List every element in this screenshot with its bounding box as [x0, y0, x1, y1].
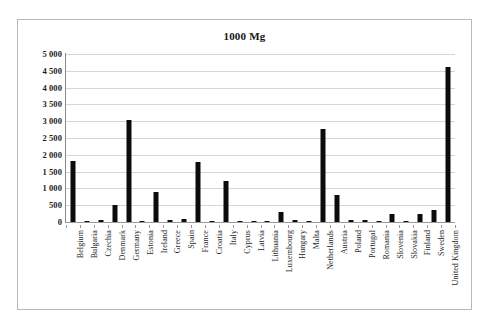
x-axis-tick — [163, 225, 164, 228]
y-axis-tick-label: 0 — [58, 217, 62, 227]
x-axis-tick-label: Lithuania — [271, 230, 280, 262]
y-axis-tick-label: 1 500 — [42, 167, 62, 177]
gridline — [66, 222, 455, 223]
x-axis-tick — [247, 225, 248, 228]
y-axis-tick-label: 3 500 — [42, 99, 62, 109]
x-axis-tick-label: Finland — [423, 230, 432, 255]
gridline — [66, 104, 455, 105]
x-axis-tick — [386, 225, 387, 228]
bar[interactable] — [279, 212, 284, 222]
x-axis-tick-label: Spain — [187, 230, 196, 249]
x-axis-tick — [261, 225, 262, 228]
x-axis-tick — [427, 225, 428, 228]
y-axis-tick-label: 2 000 — [42, 150, 62, 160]
bar[interactable] — [362, 220, 367, 222]
gridline — [66, 54, 455, 55]
x-axis-tick-label: Ireland — [160, 230, 169, 253]
x-axis-tick — [66, 225, 67, 228]
bar[interactable] — [321, 129, 326, 222]
gridline — [66, 155, 455, 156]
bar[interactable] — [293, 220, 298, 222]
bar[interactable] — [376, 221, 381, 223]
x-axis-tick-label: Malta — [312, 230, 321, 249]
gridline — [66, 88, 455, 89]
x-axis-tick — [219, 225, 220, 228]
bar[interactable] — [348, 220, 353, 222]
x-axis-tick-label: Germany — [132, 230, 141, 260]
x-axis-tick — [177, 225, 178, 228]
x-axis-tick-label: Croatia — [215, 230, 224, 254]
x-axis-tick-label: Poland — [354, 230, 363, 253]
x-axis-tick-label: Denmark — [118, 230, 127, 260]
x-axis-tick-label: Cyprus — [243, 230, 252, 254]
bar[interactable] — [237, 221, 242, 223]
x-axis-tick — [122, 225, 123, 228]
x-axis-tick-label: Hungary — [298, 230, 307, 259]
x-axis-tick-label: Bulgaria — [90, 230, 99, 258]
bar[interactable] — [98, 220, 103, 222]
bar[interactable] — [70, 161, 75, 222]
x-axis-tick-label: Portugal — [368, 230, 377, 258]
x-axis-tick — [135, 225, 136, 228]
x-axis-tick-label: Romania — [382, 230, 391, 260]
bar[interactable] — [334, 195, 339, 222]
bar[interactable] — [209, 221, 214, 223]
bar[interactable] — [182, 219, 187, 222]
x-axis-tick — [316, 225, 317, 228]
x-axis-tick-labels: BelgiumBulgariaCzechiaDenmarkGermanyEsto… — [66, 225, 455, 321]
y-axis-tick-label: 3 000 — [42, 116, 62, 126]
x-axis-tick-label: Netherlands — [326, 230, 335, 270]
x-axis-tick — [80, 225, 81, 228]
x-axis-tick — [441, 225, 442, 228]
y-axis-tick-label: 4 000 — [42, 83, 62, 93]
bar[interactable] — [168, 220, 173, 222]
chart-title: 1000 Mg — [18, 30, 471, 42]
bar[interactable] — [404, 221, 409, 223]
x-axis-tick — [330, 225, 331, 228]
bar[interactable] — [223, 181, 228, 222]
x-axis-tick — [358, 225, 359, 228]
bar[interactable] — [195, 162, 200, 222]
bar[interactable] — [154, 192, 159, 222]
x-axis-tick-label: Luxembourg — [285, 230, 294, 272]
y-axis-tick-label: 5 000 — [42, 49, 62, 59]
bar[interactable] — [84, 221, 89, 223]
bar[interactable] — [418, 214, 423, 222]
bar[interactable] — [446, 67, 451, 222]
gridline — [66, 138, 455, 139]
bar[interactable] — [126, 120, 131, 222]
x-axis-tick — [413, 225, 414, 228]
y-axis-tick-label: 1 000 — [42, 183, 62, 193]
plot-area — [66, 54, 455, 222]
bar[interactable] — [390, 214, 395, 222]
x-axis-tick-label: Sweden — [437, 230, 446, 256]
x-axis-tick — [149, 225, 150, 228]
gridline — [66, 71, 455, 72]
x-axis-tick-label: Latvia — [257, 230, 266, 251]
x-axis-tick-label: France — [201, 230, 210, 252]
x-axis-tick — [399, 225, 400, 228]
bar[interactable] — [112, 205, 117, 222]
bar[interactable] — [265, 221, 270, 223]
x-axis-tick-label: Slovakia — [410, 230, 419, 259]
bar[interactable] — [251, 221, 256, 223]
x-axis-tick — [372, 225, 373, 228]
gridline — [66, 121, 455, 122]
x-axis-tick-label: Belgium — [76, 230, 85, 258]
x-axis-tick — [94, 225, 95, 228]
x-axis-tick — [274, 225, 275, 228]
x-axis-tick — [455, 225, 456, 228]
x-axis-tick-label: Estonia — [146, 230, 155, 255]
x-axis-tick-label: Slovenia — [396, 230, 405, 259]
bar[interactable] — [307, 221, 312, 223]
y-axis-tick-label: 500 — [49, 200, 62, 210]
bar[interactable] — [432, 210, 437, 222]
gridline — [66, 205, 455, 206]
x-axis-tick — [288, 225, 289, 228]
x-axis-tick-label: Greece — [173, 230, 182, 253]
gridline — [66, 172, 455, 173]
x-axis-tick — [302, 225, 303, 228]
x-axis-tick-label: Czechia — [104, 230, 113, 256]
bar[interactable] — [140, 221, 145, 223]
chart-frame: 1000 Mg 05001 0001 5002 0002 5003 0003 5… — [17, 19, 472, 310]
